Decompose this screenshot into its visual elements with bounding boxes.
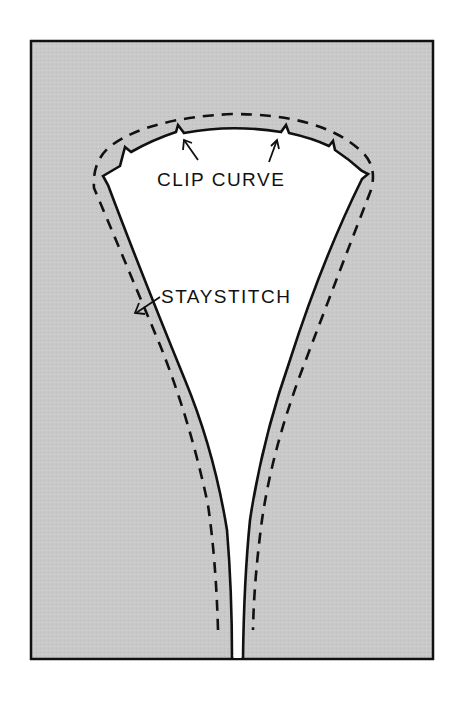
diagram-canvas <box>0 0 452 701</box>
clip-curve-label: CLIP CURVE <box>157 170 285 189</box>
sewing-diagram: CLIP CURVE STAYSTITCH <box>0 0 452 701</box>
staystitch-label: STAYSTITCH <box>161 287 291 306</box>
